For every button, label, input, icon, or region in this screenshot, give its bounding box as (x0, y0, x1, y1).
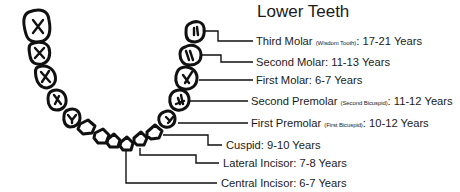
leader-cuspid (163, 135, 222, 145)
tooth-name: Second Molar (256, 56, 325, 68)
separator: : (293, 177, 296, 189)
leader-central-incisor (126, 151, 217, 183)
tooth-right-cuspid (147, 125, 162, 139)
label-third-molar: Third Molar (Wisdom Tooth): 17-21 Years (256, 35, 422, 50)
label-cuspid: Cuspid: 9-10 Years (226, 139, 321, 152)
tooth-name: Cuspid (226, 139, 261, 151)
lower-teeth-diagram: Lower Teeth Third Molar (Wisdom Tooth): … (0, 0, 460, 192)
label-first-molar: First Molar: 6-7 Years (256, 74, 362, 87)
eruption-age: 9-10 Years (267, 139, 321, 151)
separator: : (388, 95, 391, 107)
tooth-note: (Second Bicuspid) (341, 100, 388, 106)
tooth-name: Second Premolar (251, 95, 337, 107)
eruption-age: 6-7 Years (299, 177, 346, 189)
tooth-right-lateral-incisor (134, 132, 147, 145)
tooth-name: Central Incisor (221, 177, 293, 189)
tooth-name: Third Molar (256, 35, 313, 47)
diagram-title: Lower Teeth (257, 2, 349, 22)
leader-third-molar (205, 31, 253, 41)
eruption-age: 10-12 Years (369, 117, 429, 129)
tooth-note: (First Bicuspid) (324, 122, 362, 128)
label-central-incisor: Central Incisor: 6-7 Years (221, 177, 347, 190)
separator: : (356, 35, 359, 47)
separator: : (325, 56, 328, 68)
tooth-name: First Premolar (251, 117, 321, 129)
eruption-age: 6-7 Years (315, 74, 362, 86)
eruption-age: 11-13 Years (331, 56, 390, 68)
label-lateral-incisor: Lateral Incisor: 7-8 Years (223, 157, 347, 170)
tooth-note: (Wisdom Tooth) (316, 40, 357, 46)
tooth-left-cuspid (78, 120, 95, 134)
separator: : (261, 139, 264, 151)
label-first-premolar: First Premolar (First Bicuspid): 10-12 Y… (251, 117, 429, 132)
tooth-right-central-incisor (120, 137, 133, 150)
eruption-age: 17-21 Years (362, 35, 422, 47)
separator: : (363, 117, 366, 129)
separator: : (293, 157, 296, 169)
label-second-molar: Second Molar: 11-13 Years (256, 56, 390, 69)
tooth-name: Lateral Incisor (223, 157, 293, 169)
leader-second-molar (202, 55, 253, 62)
eruption-age: 11-12 Years (394, 95, 453, 107)
label-second-premolar: Second Premolar (Second Bicuspid): 11-12… (251, 95, 453, 110)
separator: : (309, 74, 312, 86)
tooth-name: First Molar (256, 74, 309, 86)
eruption-age: 7-8 Years (300, 157, 347, 169)
leader-lateral-incisor (140, 148, 219, 163)
